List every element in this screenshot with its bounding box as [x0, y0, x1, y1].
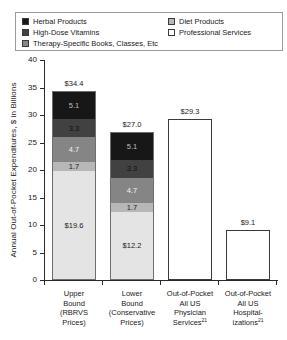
bar-total-label: $29.3: [160, 107, 220, 116]
x-tick: [102, 281, 103, 285]
x-tick: [44, 281, 45, 285]
y-tick-label: 15: [19, 193, 37, 203]
category-label-line: izations21: [212, 318, 284, 328]
y-tick-label: 30: [19, 110, 37, 120]
bar-segment: 4.7: [111, 178, 153, 203]
y-tick: [40, 170, 45, 171]
bar-segment: $12.2: [111, 212, 153, 279]
bar-segment: [169, 120, 211, 279]
y-tick-label: 10: [19, 220, 37, 230]
bar-segment: 1.7: [53, 162, 95, 171]
bar: [226, 230, 270, 280]
bar-segment: 1.7: [111, 203, 153, 212]
y-tick: [40, 198, 45, 199]
y-tick: [40, 253, 45, 254]
y-tick: [40, 225, 45, 226]
y-tick-label: 20: [19, 165, 37, 175]
bar: [168, 119, 212, 280]
bar-total-label: $9.1: [218, 218, 278, 227]
y-axis-title: Annual Out-of-Pocket Expenditures, $ in …: [9, 82, 18, 257]
category-label-line: Hospital-: [212, 308, 284, 318]
bar-segment: 5.1: [53, 92, 95, 120]
y-tick: [40, 143, 45, 144]
y-tick: [40, 115, 45, 116]
bar-segment: 4.7: [53, 137, 95, 162]
category-label-line: Out-of-Pocket: [212, 289, 284, 299]
x-tick: [160, 281, 161, 285]
bar: 5.13.34.71.7$19.6: [52, 91, 96, 280]
y-tick-label: 40: [19, 55, 37, 65]
y-tick-label: 0: [19, 275, 37, 285]
category-label-line: All US: [212, 299, 284, 309]
chart-figure: Herbal ProductsHigh-Dose VitaminsTherapy…: [0, 0, 287, 340]
y-tick-label: 35: [19, 83, 37, 93]
bar-segment: $19.6: [53, 171, 95, 279]
y-tick-label: 25: [19, 138, 37, 148]
bar-total-label: $27.0: [102, 120, 162, 129]
x-tick: [218, 281, 219, 285]
y-tick-label: 5: [19, 248, 37, 258]
bar-total-label: $34.4: [44, 79, 104, 88]
category-label: Out-of-PocketAll USHospital-izations21: [212, 289, 284, 327]
bar: 5.13.34.71.7$12.2: [110, 132, 154, 281]
bar-segment: 3.3: [111, 160, 153, 178]
x-axis-line: [44, 280, 278, 281]
plot-area: Annual Out-of-Pocket Expenditures, $ in …: [0, 0, 287, 340]
bar-segment: [227, 231, 269, 279]
x-tick: [276, 281, 277, 285]
bar-segment: 5.1: [111, 133, 153, 161]
bar-segment: 3.3: [53, 119, 95, 137]
y-tick: [40, 60, 45, 61]
